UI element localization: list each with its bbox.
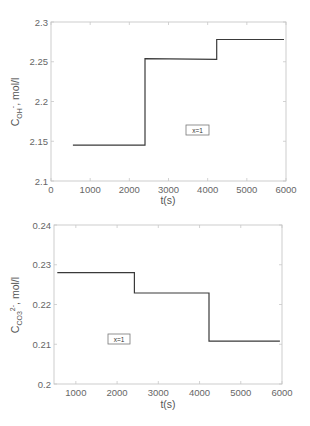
x-tick-label: 2000 — [107, 387, 128, 398]
annotation-label: x=1 — [114, 336, 125, 343]
x-axis-label: t(s) — [160, 398, 175, 410]
x-tick-label: 1000 — [65, 387, 86, 398]
chart-canvas: 2.12.152.22.252.3 0100020003000400050006… — [0, 0, 310, 426]
y-tick-label: 2.2 — [35, 96, 48, 107]
data-line — [73, 40, 284, 146]
data-line — [57, 273, 280, 341]
x-tick-label: 5000 — [236, 184, 257, 195]
y-axis-label: CCO32-, mol/l — [9, 277, 23, 333]
y-tick-label: 0.24 — [33, 220, 52, 231]
y-tick-label: 0.2 — [38, 379, 51, 390]
x-tick-label: 3000 — [148, 387, 169, 398]
plot-frame — [51, 22, 286, 181]
x-tick-label: 6000 — [271, 387, 292, 398]
y-tick-label: 2.15 — [30, 136, 49, 147]
x-tick-label: 5000 — [230, 387, 251, 398]
y-axis-label: COH-, mol/l — [9, 78, 23, 126]
annotation-box: x=1 — [186, 125, 209, 135]
x-tick-label: 6000 — [275, 184, 296, 195]
y-axis-ticks: 0.20.210.220.230.24 — [33, 220, 283, 390]
y-tick-label: 0.21 — [33, 339, 52, 350]
y-tick-label: 0.23 — [33, 259, 52, 270]
x-tick-label: 0 — [48, 184, 53, 195]
x-axis-ticks: 0100020003000400050006000 — [48, 22, 296, 195]
x-tick-label: 1000 — [80, 184, 101, 195]
annotation-label: x=1 — [192, 127, 203, 134]
y-tick-label: 0.22 — [33, 299, 52, 310]
y-axis-ticks: 2.12.152.22.252.3 — [30, 17, 287, 187]
x-tick-label: 4000 — [189, 387, 210, 398]
co3-concentration-chart: 0.20.210.220.230.24 10002000300040005000… — [9, 220, 293, 411]
x-axis-ticks: 100020003000400050006000 — [65, 225, 292, 398]
x-axis-label: t(s) — [160, 194, 175, 206]
x-tick-label: 4000 — [197, 184, 218, 195]
y-tick-label: 2.1 — [35, 176, 48, 187]
oh-concentration-chart: 2.12.152.22.252.3 0100020003000400050006… — [9, 17, 297, 207]
y-tick-label: 2.25 — [30, 56, 49, 67]
annotation-box: x=1 — [108, 334, 130, 344]
y-tick-label: 2.3 — [35, 17, 48, 28]
x-tick-label: 2000 — [119, 184, 140, 195]
plot-frame — [54, 225, 282, 384]
